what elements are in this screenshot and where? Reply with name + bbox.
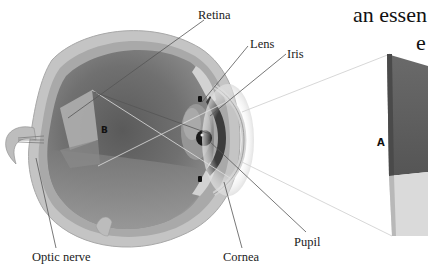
label-optic-nerve: Optic nerve (32, 251, 91, 264)
heading-text-line1: an essen (353, 4, 427, 26)
eye-diagram-artwork (0, 0, 428, 264)
label-pupil: Pupil (294, 236, 320, 249)
label-retina: Retina (198, 9, 231, 22)
label-lens: Lens (250, 38, 274, 51)
projection-line-top (242, 54, 390, 112)
marker-a: A (377, 138, 385, 148)
marker-b: B (101, 126, 108, 135)
label-cornea: Cornea (223, 251, 259, 264)
projection-line-bottom (242, 162, 392, 236)
label-iris: Iris (287, 48, 304, 61)
heading-text-line2: e (416, 32, 426, 54)
